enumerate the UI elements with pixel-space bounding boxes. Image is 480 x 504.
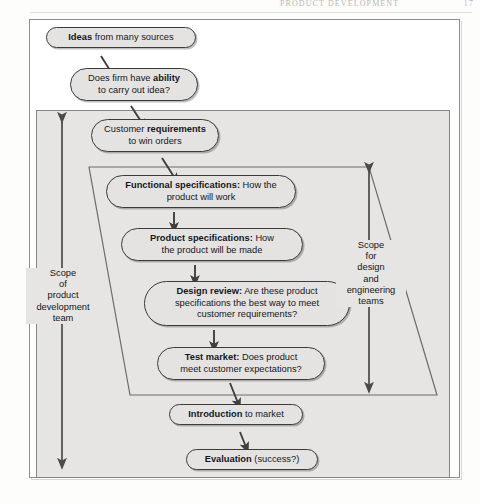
- node-ideas[interactable]: Ideas from many sources: [46, 27, 196, 48]
- scope-right-label: Scope for design and engineering teams: [336, 240, 406, 307]
- node-introduction[interactable]: Introduction to market: [169, 404, 303, 425]
- node-test-line1-post: Does product: [239, 352, 297, 362]
- page-canvas: PRODUCT DEVELOPMENT 17: [0, 0, 480, 504]
- node-introduction-post: to market: [242, 409, 283, 419]
- node-test-market[interactable]: Test market: Does product meet customer …: [157, 347, 325, 380]
- node-customer-requirements-text: Customer requirements to win orders: [104, 124, 206, 147]
- node-ability[interactable]: Does firm have ability to carry out idea…: [70, 68, 198, 101]
- node-evaluation-text: Evaluation (success?): [205, 454, 300, 465]
- node-ability-text: Does firm have ability to carry out idea…: [88, 73, 180, 96]
- node-design-line1-post: Are these product: [242, 286, 317, 296]
- node-product-specifications[interactable]: Product specifications: How the product …: [121, 228, 303, 261]
- node-design-line3: customer requirements?: [197, 309, 297, 319]
- node-test-line1-bold: Test market:: [185, 352, 240, 362]
- node-product-line1-bold: Product specifications:: [150, 233, 253, 243]
- node-requirements-line2: to win orders: [128, 136, 181, 146]
- node-test-line2: meet customer expectations?: [180, 364, 301, 374]
- node-ability-line1-bold: ability: [153, 73, 180, 83]
- node-product-text: Product specifications: How the product …: [150, 233, 274, 256]
- node-product-line1-post: How: [253, 233, 274, 243]
- node-introduction-text: Introduction to market: [188, 409, 284, 420]
- node-customer-requirements[interactable]: Customer requirements to win orders: [91, 119, 219, 152]
- node-ability-line2: to carry out idea?: [98, 85, 170, 95]
- node-product-line2: the product will be made: [162, 245, 263, 255]
- node-functional-text: Functional specifications: How the produ…: [125, 180, 276, 203]
- running-head: PRODUCT DEVELOPMENT 17: [280, 0, 480, 11]
- node-evaluation[interactable]: Evaluation (success?): [186, 449, 318, 470]
- node-functional-line1-post: How the: [240, 180, 277, 190]
- node-ability-line1-pre: Does firm have: [88, 73, 153, 83]
- node-design-review-text: Design review: Are these product specifi…: [175, 286, 319, 320]
- scope-left-label: Scope of product development team: [26, 268, 100, 324]
- node-requirements-line1-bold: requirements: [147, 124, 206, 134]
- node-design-review[interactable]: Design review: Are these product specifi…: [144, 281, 350, 326]
- node-ideas-rest: from many sources: [92, 32, 174, 42]
- node-ideas-bold: Ideas: [68, 32, 92, 42]
- node-functional-line1-bold: Functional specifications:: [125, 180, 240, 190]
- node-functional-specifications[interactable]: Functional specifications: How the produ…: [106, 175, 296, 208]
- node-test-market-text: Test market: Does product meet customer …: [180, 352, 301, 375]
- running-head-title: PRODUCT DEVELOPMENT: [280, 0, 399, 8]
- node-ideas-text: Ideas from many sources: [68, 32, 173, 43]
- header-rule: [30, 12, 472, 13]
- node-evaluation-post: (success?): [252, 454, 300, 464]
- node-requirements-line1-pre: Customer: [104, 124, 147, 134]
- node-introduction-bold: Introduction: [188, 409, 242, 419]
- node-design-line2: specifications the best way to meet: [175, 298, 319, 308]
- node-evaluation-bold: Evaluation: [205, 454, 252, 464]
- node-functional-line2: product will work: [167, 192, 236, 202]
- page-number: 17: [464, 0, 474, 8]
- node-design-line1-bold: Design review:: [176, 286, 242, 296]
